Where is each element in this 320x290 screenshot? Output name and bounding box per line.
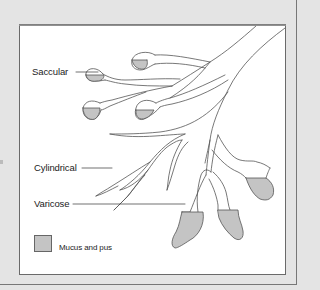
main-bronchus — [172, 26, 285, 163]
label-varicose: Varicose — [34, 198, 69, 209]
label-saccular: Saccular — [32, 66, 68, 77]
saccular-branches — [83, 52, 228, 119]
label-cylindrical: Cylindrical — [34, 162, 77, 173]
legend-swatch-mucus — [34, 235, 52, 252]
cylindrical-branches — [96, 92, 228, 210]
legend-label-mucus: Mucus and pus — [59, 243, 112, 252]
varicose-branches — [172, 135, 274, 248]
leader-lines — [73, 72, 185, 204]
